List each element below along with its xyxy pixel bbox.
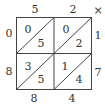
left-digit: 8 xyxy=(6,65,13,78)
top-digit: 2 xyxy=(70,3,77,16)
diagonal xyxy=(17,18,55,54)
left-digit: 0 xyxy=(6,27,13,40)
cell-tens: 1 xyxy=(62,60,69,73)
bottom-digit: 4 xyxy=(69,92,76,105)
lattice-diagram: 5 2 × 1 7 0 8 8 4 0 5 0 2 3 5 1 4 xyxy=(0,0,105,106)
cell-ones: 5 xyxy=(38,37,45,50)
cell-ones: 4 xyxy=(76,73,83,86)
cell-ones: 2 xyxy=(76,37,83,50)
top-digit: 5 xyxy=(32,3,39,16)
diagonal xyxy=(17,54,55,90)
bottom-digit: 8 xyxy=(31,92,38,105)
right-digit: 7 xyxy=(95,66,102,79)
right-digit: 1 xyxy=(95,29,102,42)
diagonal xyxy=(54,18,92,54)
cell-tens: 3 xyxy=(25,60,32,73)
times-operator: × xyxy=(93,4,102,17)
cell-tens: 0 xyxy=(25,23,32,36)
cell-tens: 0 xyxy=(63,23,70,36)
cell-ones: 5 xyxy=(38,73,45,86)
diagonal xyxy=(54,54,92,90)
